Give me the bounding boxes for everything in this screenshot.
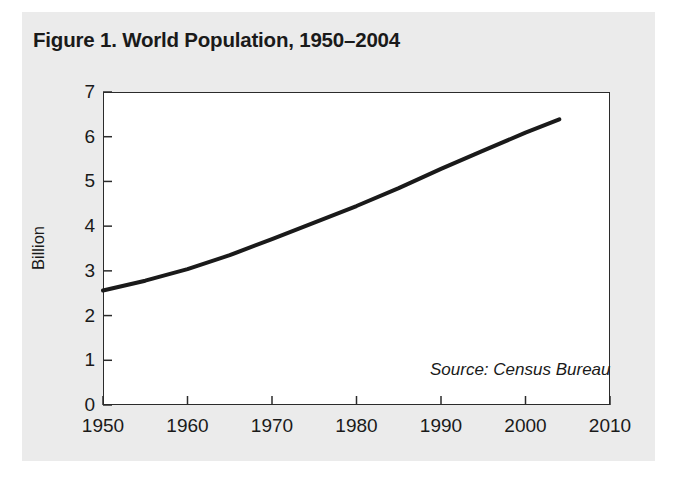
y-tick-label: 7 [69, 81, 95, 103]
x-tick-label: 2010 [589, 415, 631, 437]
y-tick-label: 6 [69, 126, 95, 148]
chart-canvas [103, 92, 610, 405]
y-axis-label: Billion [29, 226, 48, 270]
page-title: Figure 1. World Population, 1950–2004 [33, 28, 400, 52]
y-tick-label: 1 [69, 349, 95, 371]
figure-root: Figure 1. World Population, 1950–2004 Bi… [0, 0, 677, 477]
y-tick-label: 3 [69, 260, 95, 282]
x-tick-label: 1990 [420, 415, 462, 437]
y-tick-label: 0 [69, 394, 95, 416]
x-tick-label: 1980 [335, 415, 377, 437]
x-tick-label: 1950 [82, 415, 124, 437]
x-tick-label: 2000 [504, 415, 546, 437]
axis-ticks [103, 92, 610, 405]
population-line [103, 119, 559, 290]
y-tick-label: 2 [69, 305, 95, 327]
y-tick-label: 5 [69, 170, 95, 192]
x-tick-label: 1960 [166, 415, 208, 437]
source-annotation: Source: Census Bureau [430, 360, 611, 380]
y-tick-label: 4 [69, 215, 95, 237]
x-tick-label: 1970 [251, 415, 293, 437]
